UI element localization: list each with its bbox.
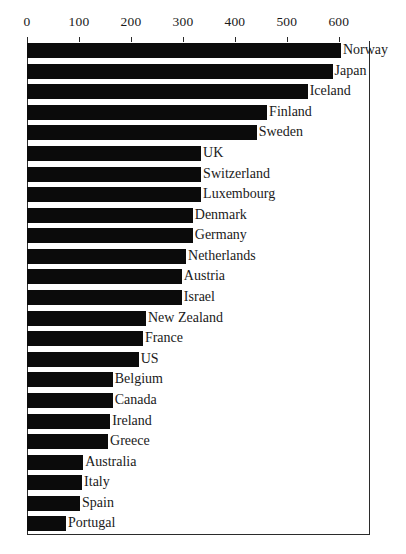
bar <box>27 167 201 182</box>
bar-row: Iceland <box>27 84 370 99</box>
bar <box>27 64 333 79</box>
bar <box>27 352 139 367</box>
bar-row: Luxembourg <box>27 187 370 202</box>
bar-category-label: Spain <box>82 495 114 511</box>
bar-row: Portugal <box>27 516 370 531</box>
bar-category-label: Norway <box>343 42 388 58</box>
bar-row: New Zealand <box>27 311 370 326</box>
bar <box>27 125 257 140</box>
bar <box>27 105 267 120</box>
bar-category-label: Sweden <box>259 124 303 140</box>
bar-category-label: France <box>145 330 183 346</box>
x-axis-tick-label: 500 <box>276 14 297 30</box>
bar-category-label: Australia <box>85 454 136 470</box>
bar-category-label: Canada <box>115 392 157 408</box>
bar-row: Spain <box>27 496 370 511</box>
bar <box>27 228 193 243</box>
bar-row: Switzerland <box>27 167 370 182</box>
bar-row: Germany <box>27 228 370 243</box>
bar-category-label: Israel <box>184 289 215 305</box>
x-axis-tick-label: 600 <box>328 14 349 30</box>
bar-row: US <box>27 352 370 367</box>
x-axis-tick-label: 300 <box>172 14 193 30</box>
bar <box>27 249 186 264</box>
bar-row: Japan <box>27 64 370 79</box>
bar-row: Greece <box>27 434 370 449</box>
bar-row: Belgium <box>27 372 370 387</box>
x-axis-tick-label: 0 <box>24 14 31 30</box>
bar <box>27 146 201 161</box>
bar-category-label: UK <box>203 145 223 161</box>
bar-category-label: Germany <box>195 227 247 243</box>
bar-row: Israel <box>27 290 370 305</box>
bar-row: Italy <box>27 475 370 490</box>
bar-category-label: Belgium <box>115 371 163 387</box>
bar <box>27 187 201 202</box>
bar-chart: 0100200300400500600 NorwayJapanIcelandFi… <box>0 0 406 554</box>
bar-category-label: Finland <box>269 104 312 120</box>
bar <box>27 290 182 305</box>
bar-category-label: Iceland <box>310 83 351 99</box>
x-axis-tick-label: 200 <box>121 14 142 30</box>
bar <box>27 455 83 470</box>
x-axis-tick-label: 100 <box>69 14 90 30</box>
bar <box>27 43 341 58</box>
x-axis-tick-label: 400 <box>224 14 245 30</box>
bar-category-label: Austria <box>184 268 225 284</box>
bar-row: Norway <box>27 43 370 58</box>
bars-container: NorwayJapanIcelandFinlandSwedenUKSwitzer… <box>27 41 370 535</box>
bar <box>27 208 193 223</box>
bar-row: France <box>27 331 370 346</box>
bar-category-label: Luxembourg <box>203 186 275 202</box>
bar <box>27 414 110 429</box>
bar-row: Sweden <box>27 125 370 140</box>
bar <box>27 269 182 284</box>
bar-category-label: US <box>141 351 159 367</box>
bar-row: Australia <box>27 455 370 470</box>
bar <box>27 475 82 490</box>
bar-row: Ireland <box>27 414 370 429</box>
bar-row: Canada <box>27 393 370 408</box>
bar <box>27 434 108 449</box>
bar-category-label: Greece <box>110 433 150 449</box>
bar-row: UK <box>27 146 370 161</box>
bar-row: Denmark <box>27 208 370 223</box>
bar <box>27 84 308 99</box>
bar <box>27 311 146 326</box>
bar-category-label: New Zealand <box>148 310 223 326</box>
bar-row: Finland <box>27 105 370 120</box>
bar <box>27 372 113 387</box>
bar-category-label: Japan <box>335 63 367 79</box>
bar <box>27 516 66 531</box>
bar <box>27 393 113 408</box>
bar-category-label: Ireland <box>112 413 152 429</box>
bar <box>27 331 143 346</box>
bar-category-label: Portugal <box>68 515 115 531</box>
bar-category-label: Italy <box>84 474 110 490</box>
bar-category-label: Netherlands <box>188 248 256 264</box>
bar-row: Austria <box>27 269 370 284</box>
bar-category-label: Denmark <box>195 207 247 223</box>
bar-row: Netherlands <box>27 249 370 264</box>
bar <box>27 496 80 511</box>
bar-category-label: Switzerland <box>203 166 270 182</box>
